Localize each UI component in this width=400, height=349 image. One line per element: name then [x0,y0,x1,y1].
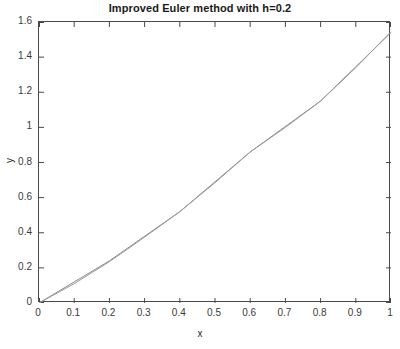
page-title: Improved Euler method with h=0.2 [0,2,400,14]
series-line-0 [39,33,391,303]
x-tick-label: 1 [370,307,400,318]
x-tick-label: 0.8 [300,307,340,318]
x-axis-label: x [0,328,400,339]
y-tick-label: 0.6 [0,191,32,202]
x-tick-label: 0.7 [264,307,304,318]
plot-svg [39,22,391,303]
plot-area [38,21,390,302]
x-tick-label: 0.1 [53,307,93,318]
y-tick-label: 1.4 [0,50,32,61]
x-tick-label: 0.5 [194,307,234,318]
x-tick-label: 0.6 [229,307,269,318]
y-tick-label: 1 [0,120,32,131]
y-tick-label: 1.6 [0,15,32,26]
y-axis-label: y [4,146,15,176]
x-tick-label: 0.9 [335,307,375,318]
figure-canvas: Improved Euler method with h=0.2 00.20.4… [0,0,400,349]
series-line-1 [39,32,391,303]
y-tick-label: 0.2 [0,261,32,272]
data-series-group [39,32,391,303]
x-tick-label: 0.2 [88,307,128,318]
x-tick-label: 0.4 [159,307,199,318]
axis-ticks [39,22,391,303]
y-tick-label: 1.2 [0,85,32,96]
x-tick-label: 0 [18,307,58,318]
y-tick-label: 0 [0,296,32,307]
x-tick-label: 0.3 [124,307,164,318]
y-tick-label: 0.4 [0,226,32,237]
